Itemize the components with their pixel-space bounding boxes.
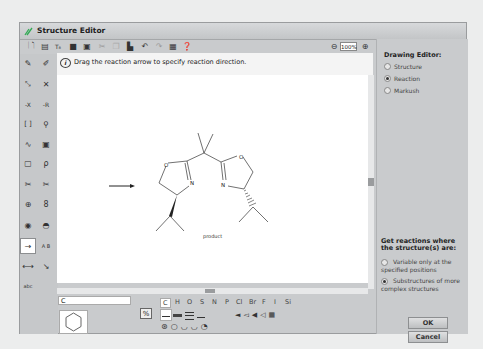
element-si[interactable]: Si: [285, 298, 291, 306]
hexagon-icon: [60, 311, 87, 333]
reaction-arrow-tool[interactable]: →: [20, 238, 36, 254]
single-bond-button[interactable]: [160, 309, 172, 321]
stereo-bond-buttons[interactable]: ◄◅◀◁▦: [235, 311, 278, 319]
save-icon[interactable]: ■: [68, 41, 78, 51]
element-n[interactable]: N: [212, 298, 217, 306]
drawing-editor-title: Drawing Editor:: [384, 51, 441, 59]
triple-bond-button[interactable]: [185, 312, 194, 320]
element-cl[interactable]: Cl: [236, 298, 242, 306]
charge-tool[interactable]: ⊕: [20, 196, 36, 212]
product-label: product: [203, 233, 222, 239]
zoom-level-field[interactable]: 100%: [340, 42, 357, 51]
element-h[interactable]: H: [175, 298, 180, 306]
mode-structure-radio[interactable]: Structure: [384, 63, 422, 70]
ok-button[interactable]: OK: [408, 317, 448, 329]
element-s[interactable]: S: [200, 298, 204, 306]
lasso-tool[interactable]: ρ: [38, 155, 54, 171]
cancel-button[interactable]: Cancel: [408, 331, 448, 343]
mode-markush-radio[interactable]: Markush: [384, 87, 419, 94]
ring-tool-1[interactable]: ◉: [20, 217, 36, 233]
text-format-icon[interactable]: T₈: [53, 41, 63, 51]
template-tool[interactable]: ▣: [38, 136, 54, 152]
query-option-substructures[interactable]: Substructures of more complex structures: [381, 277, 467, 292]
ring-template-buttons[interactable]: ⊛○◡◡◔: [161, 322, 211, 331]
ring-tool-2[interactable]: ◓: [38, 217, 54, 233]
stereo-text-tool[interactable]: abc: [20, 278, 36, 294]
query-title: Get reactions where the structure(s) are…: [381, 238, 467, 252]
element-c[interactable]: C: [160, 298, 171, 308]
element-p[interactable]: P: [225, 298, 229, 306]
window-title: Structure Editor: [37, 26, 105, 35]
open-icon[interactable]: ▤: [40, 41, 50, 51]
element-o[interactable]: O: [187, 298, 192, 306]
bond-arrow-tool[interactable]: ↘: [38, 258, 54, 274]
radio-icon: [381, 278, 388, 285]
template-icon[interactable]: ▦: [168, 41, 178, 51]
element-f[interactable]: F: [262, 298, 266, 306]
help-icon[interactable]: ❓: [182, 41, 192, 51]
atom-o-left: O: [164, 162, 168, 168]
map-arrow-tool[interactable]: ⟷: [20, 258, 36, 274]
atom-n-right: N: [221, 182, 225, 188]
radio-icon: [381, 259, 388, 266]
rect-select-tool[interactable]: ▢: [20, 155, 36, 171]
element-i[interactable]: I: [274, 298, 276, 306]
horizontal-scroll-thumb[interactable]: [205, 289, 215, 293]
hint-bar: i Drag the reaction arrow to specify rea…: [57, 53, 373, 76]
undo-icon[interactable]: ↶: [140, 41, 150, 51]
mode-reaction-radio[interactable]: Reaction: [384, 75, 420, 82]
hint-text: Drag the reaction arrow to specify react…: [74, 58, 246, 66]
bracket-tool[interactable]: [ ]: [20, 116, 36, 132]
redo-icon[interactable]: ↷: [154, 41, 164, 51]
charge-toggle-button[interactable]: %: [140, 308, 152, 319]
atom-n-left: N: [190, 180, 194, 186]
atom-map-tool[interactable]: ⤡: [20, 76, 36, 92]
atom-o-right: O: [239, 154, 243, 160]
save-as-icon[interactable]: ▣: [82, 41, 92, 51]
query-tool[interactable]: ⚲: [38, 116, 54, 132]
reaction-drawing: [57, 75, 368, 283]
main-toolbar: 🗋 ▤ T₈ ■ ▣ ✂ ❐ ▙ ↶ ↷ ▦ ❓ ⊖ 100% ⊕: [20, 39, 375, 54]
right-panel: Drawing Editor: Structure Reaction Marku…: [376, 39, 468, 334]
x-group-tool[interactable]: -X: [20, 96, 36, 112]
r-group-tool[interactable]: -R: [38, 96, 54, 112]
query-option-variable[interactable]: Variable only at the specified positions: [381, 258, 467, 273]
copy-icon[interactable]: ❐: [111, 41, 121, 51]
pencil-tool[interactable]: ✎: [20, 55, 36, 71]
bond-cut-tool[interactable]: ✂: [20, 176, 36, 192]
zoom-out-icon[interactable]: ⊖: [329, 41, 339, 51]
drawing-canvas[interactable]: O N O N product: [57, 75, 368, 283]
title-bar: Structure Editor: [20, 23, 466, 40]
eraser-tool[interactable]: ✐: [38, 55, 54, 71]
element-br[interactable]: Br: [249, 298, 256, 306]
radio-icon: [384, 87, 391, 94]
scissors-tool[interactable]: ✂: [38, 176, 54, 192]
ring-preview[interactable]: [59, 310, 88, 334]
smart-tool[interactable]: ✕: [38, 76, 54, 92]
radio-icon: [384, 75, 391, 82]
vertical-scrollbar[interactable]: [368, 75, 374, 289]
radio-icon: [384, 63, 391, 70]
paste-icon[interactable]: ▙: [125, 41, 135, 51]
zoom-in-icon[interactable]: ⊕: [360, 41, 370, 51]
vertical-scroll-thumb[interactable]: [368, 178, 374, 186]
info-icon: i: [60, 58, 71, 68]
wavy-bond-tool[interactable]: ∿: [20, 136, 36, 152]
app-icon: [24, 26, 34, 36]
atom-input[interactable]: C: [58, 296, 131, 305]
any-bond-button[interactable]: [197, 317, 205, 318]
radical-tool[interactable]: 8: [38, 196, 54, 212]
single-bond-icon: [162, 316, 170, 317]
new-icon[interactable]: 🗋: [26, 41, 36, 51]
horizontal-scrollbar[interactable]: [57, 288, 368, 294]
double-bond-button[interactable]: [173, 314, 182, 317]
cut-icon[interactable]: ✂: [97, 41, 107, 51]
ab-arrow-tool[interactable]: A B: [38, 238, 54, 254]
